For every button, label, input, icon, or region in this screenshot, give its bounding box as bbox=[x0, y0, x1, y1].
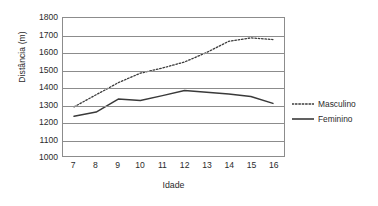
y-axis-tick-label: 1400 bbox=[39, 82, 58, 92]
line-chart: Distância (m) 18001700160015001400130012… bbox=[0, 0, 378, 206]
plot-area bbox=[62, 17, 285, 157]
y-axis-tick-labels: 180017001600150014001300120011001000 bbox=[32, 17, 58, 157]
series-line-feminino bbox=[74, 90, 273, 116]
legend-item-masculino: Masculino bbox=[292, 96, 378, 111]
x-axis-tick-labels: 78910111213141516 bbox=[62, 160, 285, 174]
x-axis-tick-label: 10 bbox=[135, 160, 145, 170]
legend-label-feminino: Feminino bbox=[318, 114, 352, 124]
gridline bbox=[63, 36, 284, 37]
y-axis-title: Distância (m) bbox=[17, 0, 27, 117]
legend-item-feminino: Feminino bbox=[292, 111, 378, 126]
x-axis-tick-label: 7 bbox=[71, 160, 76, 170]
x-axis-tick-label: 9 bbox=[115, 160, 120, 170]
dotted-line-icon bbox=[292, 99, 314, 109]
gridline bbox=[63, 88, 284, 89]
gridline bbox=[63, 53, 284, 54]
gridline bbox=[63, 123, 284, 124]
x-axis-tick-label: 8 bbox=[93, 160, 98, 170]
x-axis-tick-label: 13 bbox=[202, 160, 212, 170]
x-axis-title: Idade bbox=[62, 180, 285, 190]
chart-legend: Masculino Feminino bbox=[292, 96, 378, 126]
solid-line-icon bbox=[292, 114, 314, 124]
y-axis-tick-label: 1100 bbox=[40, 135, 58, 145]
gridline bbox=[63, 141, 284, 142]
y-axis-tick-label: 1700 bbox=[39, 30, 58, 40]
y-axis-tick-label: 1600 bbox=[39, 47, 58, 57]
legend-label-masculino: Masculino bbox=[318, 99, 356, 109]
x-axis-tick-label: 16 bbox=[269, 160, 279, 170]
x-axis-tick-label: 11 bbox=[158, 160, 167, 170]
x-axis-tick-label: 15 bbox=[247, 160, 257, 170]
y-axis-tick-label: 1800 bbox=[39, 12, 58, 22]
series-line-masculino bbox=[74, 38, 273, 107]
y-axis-tick-label: 1300 bbox=[39, 100, 58, 110]
gridline bbox=[63, 71, 284, 72]
series-lines bbox=[63, 18, 284, 156]
y-axis-tick-label: 1200 bbox=[39, 117, 58, 127]
y-axis-tick-label: 1500 bbox=[39, 65, 58, 75]
gridline bbox=[63, 106, 284, 107]
x-axis-tick-label: 14 bbox=[224, 160, 234, 170]
x-axis-tick-label: 12 bbox=[180, 160, 190, 170]
y-axis-tick-label: 1000 bbox=[39, 152, 58, 162]
